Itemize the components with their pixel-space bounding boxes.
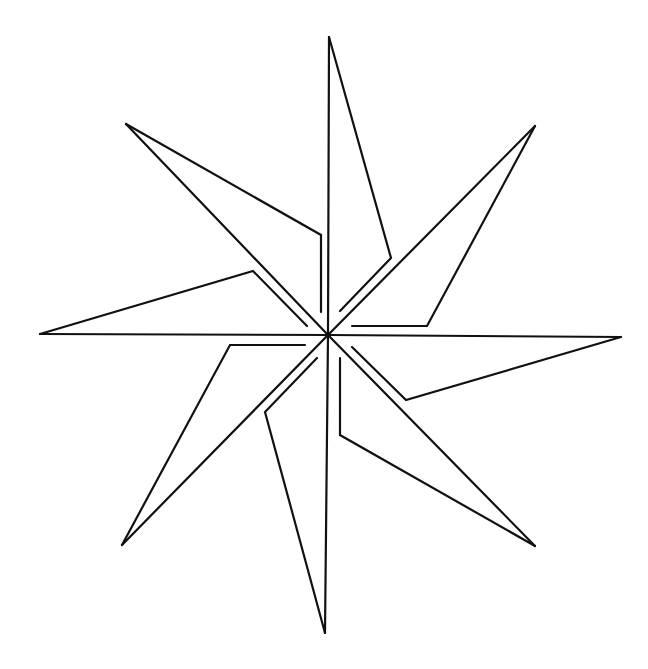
spoke-southeast xyxy=(328,335,535,546)
pinwheel-star-figure xyxy=(0,0,648,669)
blade-southwest xyxy=(122,345,305,545)
blade-north xyxy=(329,37,391,311)
spoke-northwest xyxy=(126,124,328,335)
spoke-west xyxy=(40,334,328,335)
blade-west xyxy=(40,271,307,334)
star-diagram xyxy=(0,0,648,669)
spoke-south xyxy=(325,335,328,633)
blade-northwest xyxy=(126,124,321,312)
spoke-southwest xyxy=(122,335,328,545)
spoke-north xyxy=(328,37,329,335)
blade-south xyxy=(265,358,325,633)
blade-southeast xyxy=(340,358,535,546)
blade-east xyxy=(352,337,621,400)
blade-northeast xyxy=(352,126,535,326)
spoke-northeast xyxy=(328,126,535,335)
spoke-east xyxy=(328,335,621,337)
